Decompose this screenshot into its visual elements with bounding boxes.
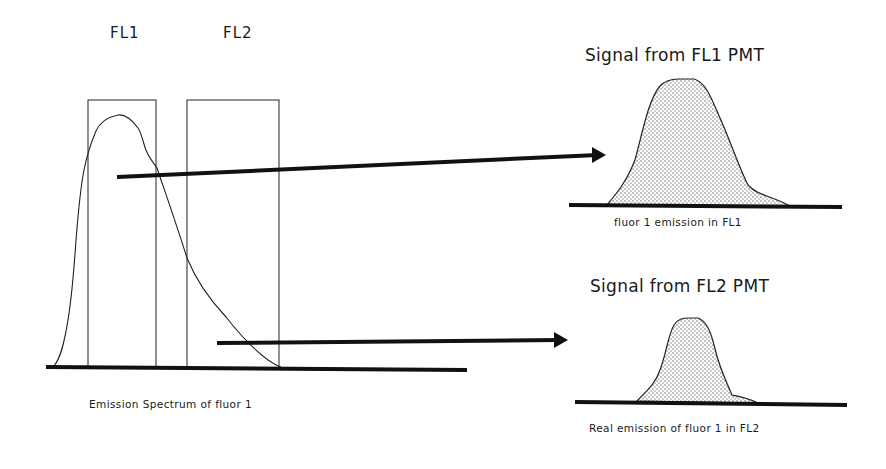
arrow-to-fl1-pmt [117,155,598,177]
fl2-signal-peak [637,318,758,403]
fl1-signal-panel [569,79,842,207]
fl1-signal-caption: fluor 1 emission in FL1 [614,216,742,228]
fl2-signal-panel [575,318,847,405]
fl1-filter-box [88,100,156,368]
arrow-to-fl2-pmt [217,340,560,343]
fl2-label: FL2 [223,24,253,42]
fl1-signal-baseline [569,205,842,207]
emission-spectrum-panel [46,100,467,370]
spectrum-baseline [46,367,467,370]
fl2-filter-box [187,100,279,368]
fl2-signal-caption: Real emission of fluor 1 in FL2 [589,422,760,434]
fl2-signal-title: Signal from FL2 PMT [590,276,769,296]
arrow-to-fl1-pmt-head [592,147,606,163]
fl1-label: FL1 [110,24,140,42]
fl2-signal-baseline [575,402,847,405]
arrow-to-fl2-pmt-head [554,332,568,348]
emission-spectrum-curve [53,115,281,367]
fl1-signal-title: Signal from FL1 PMT [585,45,764,65]
fl1-signal-peak [606,79,790,206]
spectrum-caption: Emission Spectrum of fluor 1 [89,398,252,410]
